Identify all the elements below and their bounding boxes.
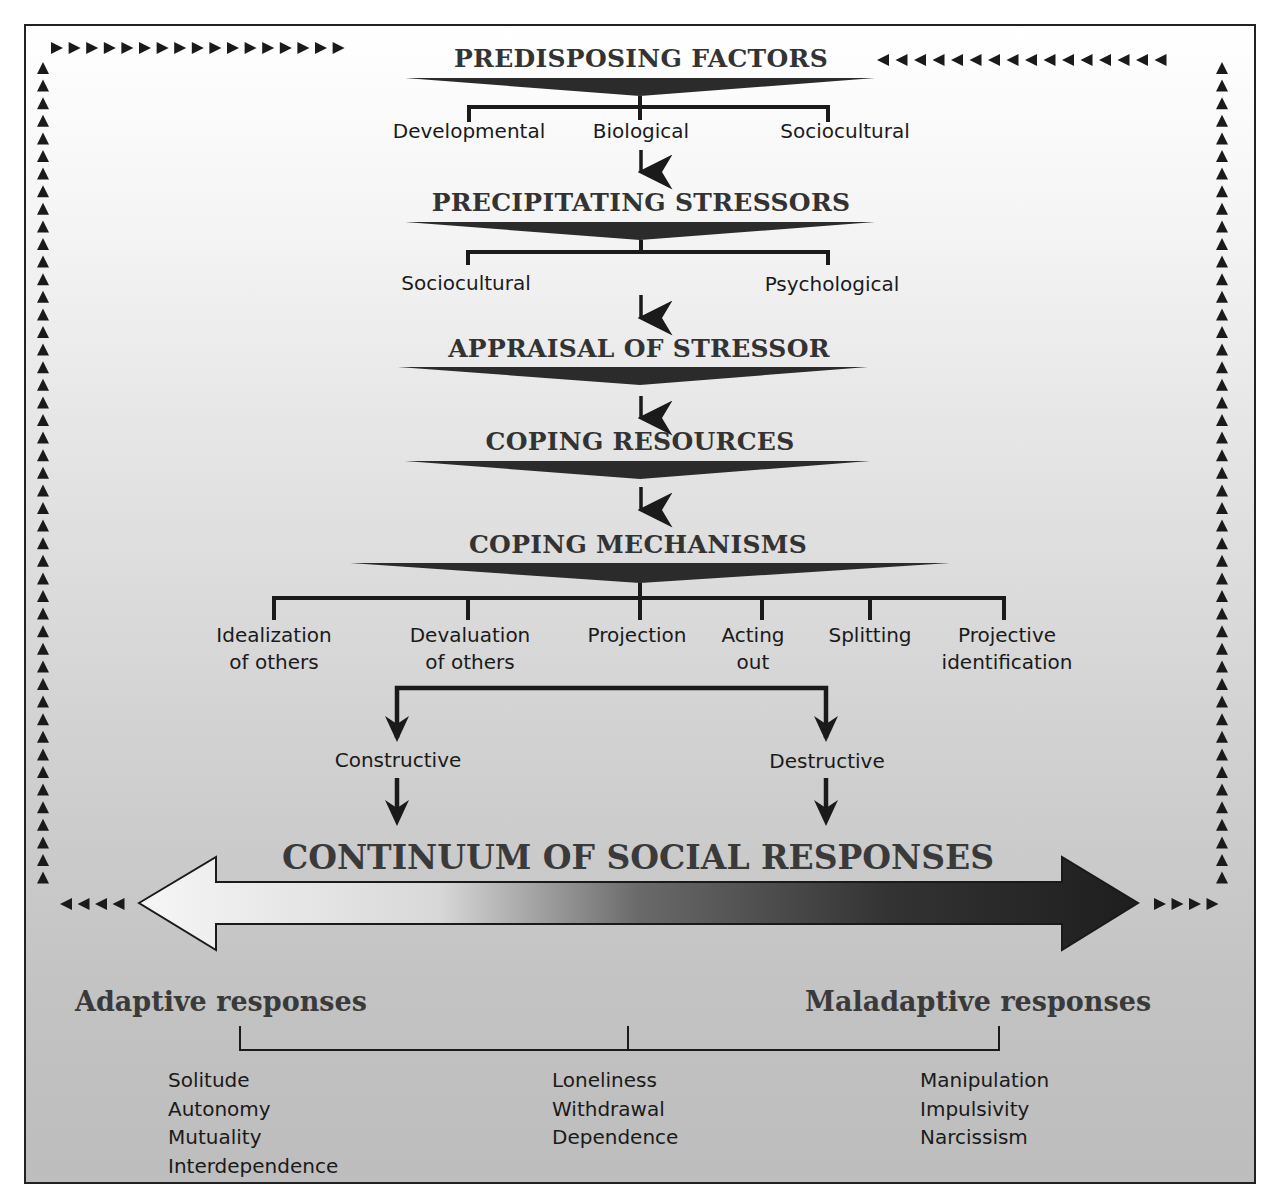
precipitating-wedge <box>405 222 875 240</box>
mechanism-line: Idealization <box>216 622 331 649</box>
continuum-heading: CONTINUUM OF SOCIAL RESPONSES <box>282 838 994 877</box>
appraisal-wedge <box>398 367 868 385</box>
mechanism-line: Acting <box>721 622 784 649</box>
mechanism-line: of others <box>410 649 531 676</box>
mechanism-line: of others <box>216 649 331 676</box>
mechanism-line: Devaluation <box>410 622 531 649</box>
predisposing-developmental: Developmental <box>393 118 545 145</box>
list-item: Autonomy <box>168 1095 338 1124</box>
predisposing-factors-heading: PREDISPOSING FACTORS <box>454 44 828 73</box>
right-column-arrows <box>1216 62 1228 884</box>
mechanism-projection: Projection <box>588 622 687 649</box>
predisposing-biological: Biological <box>593 118 689 145</box>
list-item: Mutuality <box>168 1123 338 1152</box>
precipitating-sociocultural: Sociocultural <box>401 270 531 297</box>
maladaptive-responses-label: Maladaptive responses <box>805 986 1151 1017</box>
precipitating-psychological: Psychological <box>765 271 900 298</box>
list-item: Withdrawal <box>552 1095 678 1124</box>
adaptive-responses-label: Adaptive responses <box>75 986 367 1017</box>
mechanism-devaluation: Devaluation of others <box>410 622 531 676</box>
resources-wedge <box>405 461 870 479</box>
list-item: Impulsivity <box>920 1095 1049 1124</box>
list-item: Narcissism <box>920 1123 1049 1152</box>
constructive-label: Constructive <box>335 747 462 774</box>
mechanism-line: identification <box>942 649 1073 676</box>
list-item: Manipulation <box>920 1066 1049 1095</box>
predisposing-wedge <box>405 78 875 96</box>
mechanism-line: out <box>721 649 784 676</box>
mechanism-splitting: Splitting <box>828 622 911 649</box>
maladaptive-list: Manipulation Impulsivity Narcissism <box>920 1066 1049 1152</box>
mechanism-projective-identification: Projective identification <box>942 622 1073 676</box>
responses-bracket <box>240 1026 999 1050</box>
precipitating-bracket <box>468 240 828 265</box>
adaptive-list: Solitude Autonomy Mutuality Interdepende… <box>168 1066 338 1180</box>
middle-list: Loneliness Withdrawal Dependence <box>552 1066 678 1152</box>
precipitating-stressors-heading: PRECIPITATING STRESSORS <box>432 188 851 217</box>
left-column-arrows <box>37 62 49 884</box>
mechanisms-wedge <box>350 563 950 583</box>
mechanism-line: Projective <box>942 622 1073 649</box>
destructive-label: Destructive <box>769 748 884 775</box>
mechanism-idealization: Idealization of others <box>216 622 331 676</box>
list-item: Solitude <box>168 1066 338 1095</box>
mechanisms-bracket <box>274 583 1004 620</box>
bottom-left-arrow-row <box>60 898 125 910</box>
bottom-right-arrow-row <box>1154 898 1219 910</box>
mechanism-line: Splitting <box>828 622 911 649</box>
top-right-arrow-row <box>877 54 1167 66</box>
list-item: Loneliness <box>552 1066 678 1095</box>
list-item: Dependence <box>552 1123 678 1152</box>
predisposing-sociocultural: Sociocultural <box>780 118 910 145</box>
coping-resources-heading: COPING RESOURCES <box>485 427 794 456</box>
branch-arrows <box>397 688 826 818</box>
diagram-graphics <box>0 0 1267 1197</box>
coping-mechanisms-heading: COPING MECHANISMS <box>469 530 807 559</box>
appraisal-heading: APPRAISAL OF STRESSOR <box>448 334 830 363</box>
mechanism-line: Projection <box>588 622 687 649</box>
top-left-arrow-row <box>51 42 345 54</box>
list-item: Interdependence <box>168 1152 338 1181</box>
mechanism-acting-out: Acting out <box>721 622 784 676</box>
